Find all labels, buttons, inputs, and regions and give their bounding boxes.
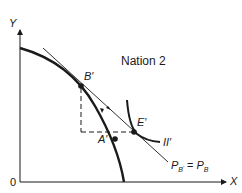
point-b-prime-label: B′ [84, 71, 93, 82]
price-line-label: PB′ = PB [171, 160, 209, 171]
price-p1-subscript: B′ [178, 166, 184, 173]
price-p2-subscript: B [204, 166, 209, 173]
point-b-prime [78, 83, 84, 89]
price-equals: = [187, 159, 193, 171]
price-p1-prime: ′ [183, 165, 184, 171]
point-e-prime-label: E′ [137, 117, 146, 128]
price-p2: P [197, 159, 204, 171]
arrow-on-frontier-icon [100, 108, 104, 113]
point-e-prime [131, 129, 137, 135]
production-frontier-curve [20, 48, 124, 182]
x-axis-label: X [230, 176, 237, 187]
origin-label: 0 [10, 177, 16, 188]
y-axis-label: Y [9, 18, 16, 29]
point-a-prime-label: A′ [98, 134, 107, 145]
chart-title: Nation 2 [121, 55, 166, 67]
indifference-curve-label: II′ [163, 137, 171, 148]
point-a-prime [112, 136, 118, 142]
